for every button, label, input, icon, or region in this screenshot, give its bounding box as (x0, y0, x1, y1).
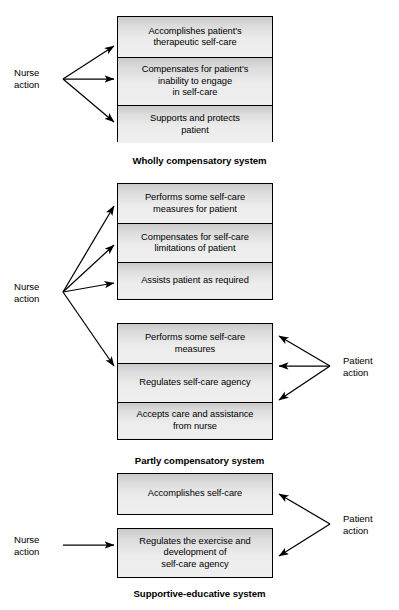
nurse-action-label-supportive: Nurse action (14, 534, 39, 557)
patient-action-line2: action (343, 525, 373, 537)
supportive-educative-group-a: Accomplishes self-care (117, 473, 273, 515)
arrows-wholly-compensatory (63, 46, 114, 122)
cell-line: Regulates the exercise and (139, 536, 250, 547)
cell-line: inability to engage (142, 76, 248, 87)
nurse-action-line2: action (14, 79, 39, 91)
cell-line: Performs some self-care (145, 192, 245, 203)
cell-regulates-exercise-development-self-care-agency[interactable]: Regulates the exercise and development o… (118, 529, 272, 577)
cell-line: development of (139, 547, 250, 558)
nurse-action-line1: Nurse (14, 534, 39, 546)
cell-line: therapeutic self-care (148, 37, 241, 48)
cell-line: patient (150, 125, 240, 136)
cell-line: Accomplishes self-care (148, 488, 242, 499)
nurse-action-label-partly: Nurse action (14, 281, 39, 304)
patient-action-label-supportive: Patient action (343, 513, 373, 536)
cell-line: Accomplishes patient's (148, 26, 241, 37)
cell-line: measures for patient (145, 204, 245, 215)
cell-line: self-care agency (139, 559, 250, 570)
caption-partly-compensatory-system: Partly compensatory system (0, 455, 399, 466)
patient-action-label-partly: Patient action (343, 355, 373, 378)
patient-action-line1: Patient (343, 513, 373, 525)
cell-supports-protects-patient[interactable]: Supports and protects patient (118, 105, 272, 143)
arrows-supportive-educative-patient (279, 494, 330, 556)
nurse-action-label-wholly: Nurse action (14, 67, 39, 90)
patient-action-line2: action (343, 367, 373, 379)
cell-accomplishes-therapeutic-self-care[interactable]: Accomplishes patient's therapeutic self-… (118, 17, 272, 57)
nurse-action-line1: Nurse (14, 281, 39, 293)
cell-line: Assists patient as required (141, 275, 249, 286)
cell-line: measures (145, 344, 245, 355)
cell-line: in self-care (142, 87, 248, 98)
cell-line: limitations of patient (141, 243, 249, 254)
caption-supportive-educative-system: Supportive-educative system (0, 588, 399, 599)
cell-line: Supports and protects (150, 113, 240, 124)
caption-wholly-compensatory-system: Wholly compensatory system (0, 155, 399, 166)
wholly-compensatory-group: Accomplishes patient's therapeutic self-… (117, 16, 273, 142)
nurse-action-line1: Nurse (14, 67, 39, 79)
cell-line: from nurse (137, 421, 254, 432)
cell-line: Compensates for patient's (142, 64, 248, 75)
cell-line: Compensates for self-care (141, 232, 249, 243)
arrows-partly-compensatory-patient (279, 336, 330, 400)
cell-compensates-self-care-limitations[interactable]: Compensates for self-care limitations of… (118, 223, 272, 262)
cell-compensates-inability-engage[interactable]: Compensates for patient's inability to e… (118, 57, 272, 105)
nurse-action-line2: action (14, 546, 39, 558)
partly-compensatory-nurse-group: Performs some self-care measures for pat… (117, 183, 273, 300)
orem-nursing-systems-diagram: Nurse action Accomplishes patient's ther… (0, 0, 399, 610)
cell-accepts-care-and-assistance-from-nurse[interactable]: Accepts care and assistance from nurse (118, 402, 272, 438)
supportive-educative-group-b: Regulates the exercise and development o… (117, 528, 273, 578)
cell-performs-some-self-care-measures-for-patient[interactable]: Performs some self-care measures for pat… (118, 184, 272, 223)
arrows-partly-compensatory-nurse (63, 206, 114, 366)
cell-assists-patient-as-required[interactable]: Assists patient as required (118, 262, 272, 298)
cell-line: Performs some self-care (145, 332, 245, 343)
cell-line: Accepts care and assistance (137, 409, 254, 420)
patient-action-line1: Patient (343, 355, 373, 367)
cell-regulates-self-care-agency[interactable]: Regulates self-care agency (118, 363, 272, 402)
cell-accomplishes-self-care[interactable]: Accomplishes self-care (118, 474, 272, 514)
cell-performs-some-self-care-measures[interactable]: Performs some self-care measures (118, 324, 272, 363)
partly-compensatory-patient-group: Performs some self-care measures Regulat… (117, 323, 273, 440)
nurse-action-line2: action (14, 293, 39, 305)
cell-line: Regulates self-care agency (139, 377, 250, 388)
